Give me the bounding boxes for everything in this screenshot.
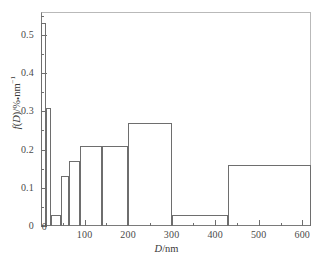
y-axis-label-lparen: ( — [11, 123, 22, 127]
y-axis-label-nm: nm — [11, 83, 22, 96]
y-tick-minor — [41, 16, 44, 17]
x-axis-label-unit: /nm — [162, 243, 178, 254]
x-tick-major — [172, 220, 173, 226]
y-tick-major — [41, 150, 47, 151]
x-tick-minor — [106, 223, 107, 226]
figure: 0100200300400500600 00.10.20.30.40.5 D/n… — [0, 0, 333, 262]
x-tick-major — [259, 220, 260, 226]
x-tick-minor — [237, 223, 238, 226]
y-tick-major — [41, 73, 47, 74]
x-tick-major — [85, 220, 86, 226]
x-axis-label: D/nm — [0, 243, 333, 254]
plot-frame — [41, 12, 311, 226]
x-axis-label-symbol: D — [155, 243, 163, 254]
y-tick-minor — [41, 130, 44, 131]
x-tick-minor — [281, 223, 282, 226]
y-tick-label: 0 — [0, 220, 34, 231]
y-axis-label-d: D — [11, 115, 22, 123]
y-axis-label-rparen: ) — [11, 112, 22, 116]
y-tick-minor — [41, 92, 44, 93]
x-tick-label: 500 — [239, 229, 279, 240]
x-tick-major — [302, 220, 303, 226]
x-tick-label: 200 — [108, 229, 148, 240]
x-tick-major — [215, 220, 216, 226]
x-tick-label: 300 — [152, 229, 192, 240]
y-axis-label: f(D)/%•nm−1 — [9, 43, 22, 163]
y-tick-minor — [41, 54, 44, 55]
y-axis-label-dot: • — [13, 97, 23, 100]
y-tick-label: 0.5 — [0, 29, 34, 40]
y-tick-major — [41, 35, 47, 36]
x-tick-minor — [150, 223, 151, 226]
x-tick-major — [128, 220, 129, 226]
y-axis-label-percent: /% — [11, 100, 22, 112]
y-tick-major — [41, 188, 47, 189]
x-tick-label: 400 — [195, 229, 235, 240]
y-tick-major — [41, 111, 47, 112]
y-tick-minor — [41, 207, 44, 208]
x-tick-minor — [193, 223, 194, 226]
x-tick-label: 600 — [282, 229, 322, 240]
y-axis-label-f: f — [11, 126, 22, 129]
y-tick-minor — [41, 169, 44, 170]
y-tick-label: 0.1 — [0, 182, 34, 193]
y-axis-label-exponent: −1 — [9, 76, 17, 83]
x-tick-label: 100 — [65, 229, 105, 240]
x-tick-minor — [63, 223, 64, 226]
